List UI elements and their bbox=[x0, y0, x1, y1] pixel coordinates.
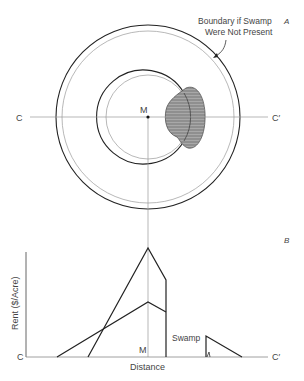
panel-a-label: A bbox=[283, 17, 289, 26]
panel-a: M C C′ Boundary if Swamp Were Not Presen… bbox=[16, 16, 289, 357]
small-tick-mark bbox=[207, 352, 210, 357]
x-axis-label: Distance bbox=[130, 362, 165, 372]
panel-b-label: B bbox=[284, 236, 290, 245]
shallow-rent-line bbox=[57, 302, 166, 357]
diagram-canvas: M C C′ Boundary if Swamp Were Not Presen… bbox=[0, 0, 304, 381]
origin-c-label: C bbox=[17, 352, 24, 362]
right-c-prime-label: C′ bbox=[272, 113, 280, 123]
beyond-swamp-line bbox=[206, 336, 242, 357]
left-c-label: C bbox=[16, 113, 23, 123]
panel-b: B Rent ($/Acre) Distance C C′ M Swamp bbox=[10, 236, 290, 372]
steep-rent-line bbox=[88, 248, 166, 357]
annotation-line-1: Boundary if Swamp bbox=[198, 16, 272, 26]
y-axis-label: Rent ($/Acre) bbox=[10, 276, 20, 330]
annotation-arrow bbox=[216, 40, 226, 56]
center-m-dot bbox=[146, 115, 149, 118]
annotation-line-2: Were Not Present bbox=[205, 27, 273, 37]
center-m-label: M bbox=[140, 105, 148, 115]
swamp-label: Swamp bbox=[172, 333, 201, 343]
right-c-prime-label-b: C′ bbox=[272, 352, 280, 362]
m-label-b: M bbox=[139, 345, 147, 355]
